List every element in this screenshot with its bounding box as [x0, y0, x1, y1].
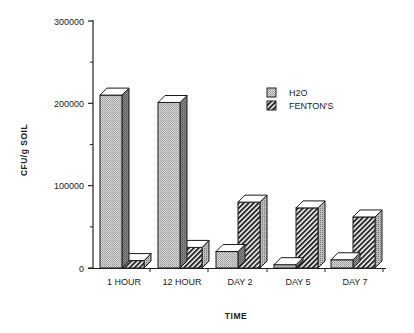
legend-swatch-h2o	[267, 88, 276, 97]
y-tick-label: 0	[79, 264, 84, 274]
legend: H2O FENTON'S	[267, 88, 334, 111]
bar-h2o-4	[331, 253, 360, 268]
chart: 0100000200000300000 1 HOUR12 HOURDAY 2DA…	[0, 0, 414, 333]
y-axis: 0100000200000300000	[54, 17, 93, 274]
x-category-labels: 1 HOUR12 HOURDAY 2DAY 5DAY 7	[107, 277, 368, 287]
bar-h2o-0	[100, 88, 129, 268]
x-category-label: DAY 5	[285, 277, 310, 287]
legend-item-h2o: H2O	[267, 88, 308, 98]
y-tick-label: 300000	[54, 17, 84, 27]
x-axis	[88, 268, 386, 272]
y-axis-title: CFU/g SOIL	[19, 124, 29, 176]
x-category-label: DAY 7	[342, 277, 367, 287]
legend-label-h2o: H2O	[289, 88, 308, 98]
x-category-label: 1 HOUR	[107, 277, 142, 287]
legend-swatch-fentons	[267, 101, 276, 110]
y-tick-label: 200000	[54, 99, 84, 109]
legend-label-fentons: FENTON'S	[289, 101, 334, 111]
bar-h2o-1	[158, 96, 187, 268]
x-category-label: 12 HOUR	[162, 277, 202, 287]
bar-h2o-2	[216, 245, 245, 268]
y-tick-label: 100000	[54, 181, 84, 191]
x-category-label: DAY 2	[227, 277, 252, 287]
x-axis-title: TIME	[225, 311, 247, 321]
legend-item-fentons: FENTON'S	[267, 101, 334, 111]
bars	[100, 88, 382, 268]
